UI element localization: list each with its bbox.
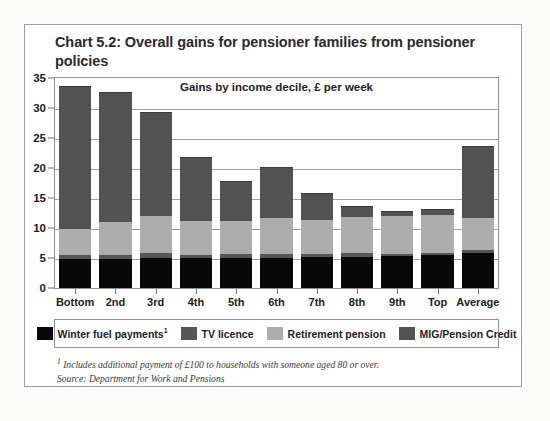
legend-label-retirement-pension: Retirement pension — [288, 328, 386, 340]
bar-9th — [381, 211, 413, 288]
chart-subtitle: Gains by income decile, £ per week — [55, 81, 498, 93]
y-axis-tick-label: 30 — [33, 102, 46, 114]
bar-segment-mig-pension-credit — [260, 167, 292, 218]
x-axis-tick-label-6th: 6th — [268, 296, 285, 308]
bar-segment-winter-fuel-payments — [381, 256, 413, 288]
bar-5th — [220, 181, 252, 288]
y-axis-tick-label: 5 — [40, 252, 46, 264]
bar-average — [462, 146, 494, 288]
x-axis-tick-label-3rd: 3rd — [147, 296, 164, 308]
x-axis-tick-mark — [75, 289, 76, 294]
bar-series-container — [55, 78, 498, 288]
legend-label-mig-pension-credit: MIG/Pension Credit — [420, 328, 517, 340]
x-axis-tick-mark — [397, 289, 398, 294]
bar-segment-retirement-pension — [462, 218, 494, 250]
bar-segment-retirement-pension — [140, 216, 172, 254]
source-line: Source: Department for Work and Pensions — [57, 372, 497, 386]
legend-item-retirement-pension[interactable]: Retirement pension — [267, 327, 386, 340]
y-axis-tick-label: 25 — [33, 132, 46, 144]
legend-label-tv-licence: TV licence — [202, 328, 254, 340]
bar-segment-winter-fuel-payments — [59, 259, 91, 288]
page-title: Chart 5.2: Overall gains for pensioner f… — [55, 33, 495, 70]
footnotes: 1 Includes additional payment of £100 to… — [57, 357, 497, 385]
bar-segment-winter-fuel-payments — [220, 258, 252, 288]
legend-swatch-mig-pension-credit — [399, 327, 415, 340]
y-axis-tick-label: 0 — [40, 282, 46, 294]
x-axis-tick-mark — [277, 289, 278, 294]
bar-3rd — [140, 112, 172, 288]
chart-legend: Winter fuel payments1TV licenceRetiremen… — [54, 319, 499, 348]
y-axis-tick-label: 15 — [33, 192, 46, 204]
bar-segment-winter-fuel-payments — [421, 255, 453, 288]
bar-segment-retirement-pension — [220, 221, 252, 254]
bar-segment-winter-fuel-payments — [180, 258, 212, 288]
bar-segment-winter-fuel-payments — [341, 257, 373, 288]
bar-8th — [341, 206, 373, 288]
legend-footnote-marker: 1 — [164, 327, 168, 334]
x-axis-tick-mark — [357, 289, 358, 294]
x-axis: Bottom2nd3rd4th5th6th7th8th9thTopAverage — [55, 289, 498, 315]
x-axis-tick-label-bottom: Bottom — [56, 296, 95, 308]
x-axis-tick-label-top: Top — [428, 296, 447, 308]
bar-segment-mig-pension-credit — [341, 206, 373, 217]
x-axis-tick-label-7th: 7th — [309, 296, 326, 308]
footnote-line: 1 Includes additional payment of £100 to… — [57, 357, 497, 372]
bar-segment-retirement-pension — [341, 217, 373, 253]
x-axis-tick-mark — [438, 289, 439, 294]
y-axis: 05101520253035 — [25, 77, 54, 289]
legend-item-tv-licence[interactable]: TV licence — [181, 327, 254, 340]
bar-segment-mig-pension-credit — [99, 92, 131, 221]
x-axis-tick-label-8th: 8th — [349, 296, 366, 308]
y-axis-tick-label: 35 — [33, 72, 46, 84]
x-axis-tick-mark — [317, 289, 318, 294]
bar-2nd — [99, 92, 131, 288]
bar-segment-retirement-pension — [381, 216, 413, 253]
x-axis-tick-label-2nd: 2nd — [106, 296, 126, 308]
legend-label-winter-fuel-payments: Winter fuel payments1 — [58, 327, 168, 340]
bar-segment-retirement-pension — [421, 215, 453, 253]
chart-card: Chart 5.2: Overall gains for pensioner f… — [24, 24, 522, 387]
footnote-text: Includes additional payment of £100 to h… — [61, 359, 379, 370]
bar-segment-retirement-pension — [301, 220, 333, 253]
x-axis-tick-label-average: Average — [456, 296, 499, 308]
bar-segment-winter-fuel-payments — [140, 258, 172, 288]
bar-segment-mig-pension-credit — [220, 181, 252, 221]
y-axis-tick-label: 10 — [33, 222, 46, 234]
bar-segment-mig-pension-credit — [59, 86, 91, 229]
bar-segment-mig-pension-credit — [180, 157, 212, 221]
bar-7th — [301, 193, 333, 288]
bar-bottom — [59, 86, 91, 288]
x-axis-tick-label-4th: 4th — [188, 296, 205, 308]
bar-segment-winter-fuel-payments — [462, 253, 494, 288]
x-axis-tick-label-5th: 5th — [228, 296, 245, 308]
legend-swatch-winter-fuel-payments — [37, 327, 53, 340]
bar-segment-retirement-pension — [260, 218, 292, 254]
bar-segment-retirement-pension — [99, 222, 131, 255]
bar-segment-retirement-pension — [59, 229, 91, 255]
x-axis-tick-mark — [196, 289, 197, 294]
legend-swatch-retirement-pension — [267, 327, 283, 340]
legend-item-winter-fuel-payments[interactable]: Winter fuel payments1 — [37, 327, 168, 340]
bar-segment-mig-pension-credit — [301, 193, 333, 220]
bar-4th — [180, 157, 212, 288]
x-axis-tick-mark — [478, 289, 479, 294]
bar-segment-winter-fuel-payments — [99, 259, 131, 288]
x-axis-tick-mark — [156, 289, 157, 294]
bar-segment-winter-fuel-payments — [260, 258, 292, 288]
x-axis-tick-mark — [115, 289, 116, 294]
y-axis-tick-label: 20 — [33, 162, 46, 174]
bar-segment-mig-pension-credit — [140, 112, 172, 216]
bar-top — [421, 209, 453, 288]
x-axis-tick-label-9th: 9th — [389, 296, 406, 308]
legend-swatch-tv-licence — [181, 327, 197, 340]
bar-segment-retirement-pension — [180, 221, 212, 254]
bar-segment-winter-fuel-payments — [301, 257, 333, 288]
x-axis-tick-mark — [236, 289, 237, 294]
legend-item-mig-pension-credit[interactable]: MIG/Pension Credit — [399, 327, 517, 340]
bar-6th — [260, 167, 292, 288]
bar-segment-mig-pension-credit — [462, 146, 494, 218]
